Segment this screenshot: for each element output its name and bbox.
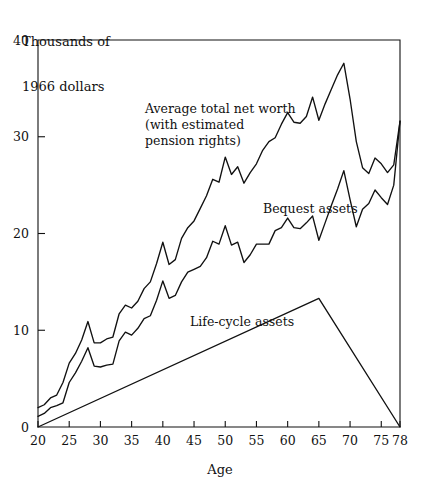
- x-tick-label: 35: [124, 433, 140, 448]
- y-tick-label: 0: [21, 420, 29, 435]
- x-tick-label: 70: [342, 433, 358, 448]
- bequest-assets-label: Bequest assets: [263, 201, 358, 216]
- chart-plot: 20253035404550556065707578 010203040 Ave…: [0, 0, 440, 493]
- figure-container: Thousands of 1966 dollars 20253035404550…: [0, 0, 440, 493]
- y-tick-label: 10: [13, 323, 29, 338]
- x-tick-label: 78: [392, 433, 408, 448]
- average-total-net-worth-label: Average total net worth: [144, 101, 296, 116]
- x-tick-label: 25: [61, 433, 77, 448]
- y-tick-label: 30: [13, 129, 29, 144]
- x-tick-label: 45: [186, 433, 202, 448]
- x-tick-label: 65: [311, 433, 327, 448]
- x-axis-title: Age: [0, 462, 440, 477]
- x-tick-label: 60: [280, 433, 296, 448]
- x-tick-label: 40: [155, 433, 171, 448]
- x-tick-label: 30: [92, 433, 108, 448]
- x-tick-label: 20: [30, 433, 46, 448]
- plot-border: [38, 40, 400, 427]
- x-tick-label: 75: [373, 433, 389, 448]
- life-cycle-assets-label: Life-cycle assets: [190, 314, 294, 329]
- average-total-net-worth-label: pension rights): [145, 133, 241, 148]
- plot-frame: [38, 40, 400, 427]
- y-tick-label: 20: [13, 226, 29, 241]
- x-tick-label: 50: [217, 433, 233, 448]
- x-axis-ticks: 20253035404550556065707578: [30, 421, 408, 448]
- series-line: [38, 121, 400, 416]
- y-tick-label: 40: [13, 33, 29, 48]
- average-total-net-worth-label: (with estimated: [145, 117, 244, 132]
- x-tick-label: 55: [248, 433, 264, 448]
- y-axis-ticks: 010203040: [13, 33, 45, 435]
